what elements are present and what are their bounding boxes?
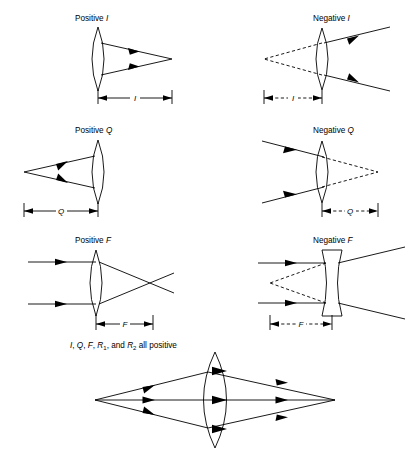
lens-positive-q	[92, 140, 104, 204]
panel-title-positive-f: Positive F	[75, 236, 112, 245]
dimension-negative-f: F	[270, 315, 332, 330]
panel-positive-f: Positive F F	[28, 236, 174, 330]
rays-positive-q	[24, 156, 95, 188]
virtual-ray-extension	[264, 59, 322, 75]
panel-title-negative-q: Negative Q	[313, 126, 355, 135]
rays-negative-f	[258, 247, 405, 319]
dimension-label-positive-q: Q	[58, 207, 64, 216]
rays-positive-f	[28, 259, 174, 307]
ray-arrowhead	[128, 63, 140, 70]
virtual-ray-extension	[322, 157, 378, 172]
optics-figure-svg: Positive I I	[0, 0, 415, 449]
dimension-negative-q: Q	[322, 203, 378, 217]
rays-negative-i	[264, 27, 390, 91]
lens-negative-i	[316, 28, 328, 90]
rays-positive-i	[101, 43, 172, 75]
virtual-ray-extension	[270, 283, 326, 303]
virtual-ray-extension	[270, 263, 326, 283]
dimension-positive-q: Q	[24, 203, 98, 217]
panel-title-positive-q: Positive Q	[75, 126, 113, 135]
panel-title-positive-i: Positive I	[75, 14, 109, 23]
lens-positive-f	[90, 250, 102, 316]
panel-positive-i: Positive I I	[75, 14, 172, 104]
lens-negative-q	[316, 141, 328, 203]
panel-title-negative-f: Negative F	[313, 236, 354, 245]
virtual-ray-extension	[264, 43, 322, 59]
virtual-ray-extension	[322, 172, 378, 187]
dimension-negative-i: I	[264, 90, 322, 104]
dimension-label-negative-q: Q	[347, 207, 353, 216]
panel-negative-f: Negative F	[258, 236, 405, 330]
rays-negative-q	[262, 141, 378, 203]
dimension-positive-i: I	[98, 90, 172, 104]
panel-all-positive: I, Q, F, R1, and R2 all positive	[70, 341, 335, 448]
optics-figure: Positive I I	[0, 0, 415, 449]
summary-caption: I, Q, F, R1, and R2 all positive	[70, 341, 177, 351]
lens-positive-i	[92, 27, 104, 91]
panel-title-negative-i: Negative I	[313, 14, 351, 23]
ray-arrowhead	[128, 48, 140, 55]
lens-negative-f	[322, 250, 342, 316]
dimension-positive-f: F	[96, 315, 153, 330]
panel-negative-i: Negative I I	[264, 14, 390, 104]
panel-positive-q: Positive Q Q	[24, 126, 113, 217]
panel-negative-q: Negative Q Q	[262, 126, 378, 217]
